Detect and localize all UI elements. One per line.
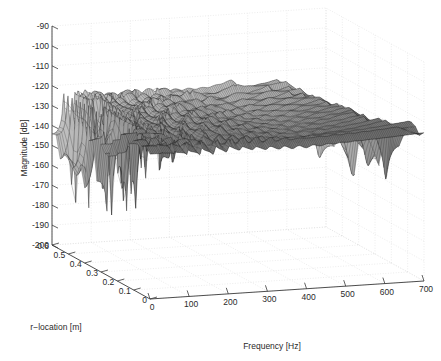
grid-line bbox=[52, 187, 326, 205]
x-tick bbox=[383, 278, 385, 284]
y-tick-label: 0.2 bbox=[103, 277, 115, 287]
z-tick-label: -170 bbox=[32, 180, 49, 190]
z-tick bbox=[52, 126, 58, 129]
surface-mesh bbox=[52, 80, 424, 216]
x-tick-label: 500 bbox=[341, 289, 355, 299]
x-tick bbox=[187, 290, 189, 296]
y-axis-label: r−location [m] bbox=[30, 322, 81, 332]
x-tick-label: 0 bbox=[150, 302, 155, 312]
y-tick-label: 0.4 bbox=[70, 259, 82, 269]
grid-line bbox=[52, 227, 326, 245]
grid-line bbox=[68, 236, 342, 254]
z-tick bbox=[52, 205, 58, 208]
z-tick bbox=[52, 26, 58, 29]
z-tick bbox=[52, 245, 58, 248]
y-tick-label: 0.3 bbox=[86, 268, 98, 278]
z-tick bbox=[52, 225, 58, 228]
x-tick bbox=[265, 285, 267, 291]
plot-3d-surface: -200-190-180-170-160-150-140-130-120-110… bbox=[0, 0, 441, 361]
z-tick bbox=[52, 145, 58, 148]
x-axis-label: Frequency [Hz] bbox=[243, 341, 301, 351]
y-tick-label: 0 bbox=[142, 295, 147, 305]
x-tick-label: 300 bbox=[262, 294, 276, 304]
y-tick-label: 0.6 bbox=[37, 241, 49, 251]
x-tick bbox=[344, 280, 346, 286]
z-tick-label: -130 bbox=[32, 101, 49, 111]
grid-line bbox=[52, 8, 326, 26]
z-tick-label: -120 bbox=[32, 81, 49, 91]
x-tick bbox=[305, 283, 307, 289]
z-tick-label: -100 bbox=[32, 41, 49, 51]
z-tick bbox=[52, 165, 58, 168]
grid-line bbox=[85, 245, 359, 263]
mesh-line-f bbox=[153, 88, 157, 90]
z-tick bbox=[52, 185, 58, 188]
y-tick-label: 0.1 bbox=[119, 286, 131, 296]
z-tick bbox=[52, 66, 58, 69]
x-tick-label: 200 bbox=[223, 297, 237, 307]
z-tick bbox=[52, 106, 58, 109]
z-axis-label: Magnitude [dB] bbox=[19, 119, 29, 176]
z-tick-label: -150 bbox=[32, 140, 49, 150]
grid-line bbox=[134, 272, 408, 290]
z-tick-label: -180 bbox=[32, 200, 49, 210]
x-tick-label: 400 bbox=[301, 292, 315, 302]
grid-line bbox=[117, 263, 391, 281]
x-tick-label: 100 bbox=[184, 299, 198, 309]
z-tick-label: -160 bbox=[32, 160, 49, 170]
grid-line bbox=[52, 167, 326, 185]
z-tick bbox=[52, 46, 58, 49]
grid-line bbox=[326, 207, 424, 261]
x-tick-label: 700 bbox=[419, 284, 433, 294]
x-tick bbox=[422, 275, 424, 281]
grid-line bbox=[248, 232, 346, 286]
z-tick-label: -90 bbox=[37, 21, 50, 31]
grid-line bbox=[101, 254, 375, 272]
grid-line bbox=[52, 207, 326, 225]
figure-canvas: -200-190-180-170-160-150-140-130-120-110… bbox=[0, 0, 441, 361]
z-tick-label: -190 bbox=[32, 220, 49, 230]
x-tick-label: 600 bbox=[380, 287, 394, 297]
z-tick-label: -110 bbox=[33, 61, 50, 71]
grid-line bbox=[52, 227, 326, 245]
y-tick-label: 0.5 bbox=[54, 250, 66, 260]
grid-line bbox=[287, 230, 385, 284]
z-tick-label: -140 bbox=[32, 121, 49, 131]
z-tick bbox=[52, 86, 58, 89]
x-tick bbox=[226, 288, 228, 294]
grid-line bbox=[52, 48, 326, 66]
mesh-line-f bbox=[314, 97, 318, 98]
grid-line bbox=[52, 28, 326, 46]
